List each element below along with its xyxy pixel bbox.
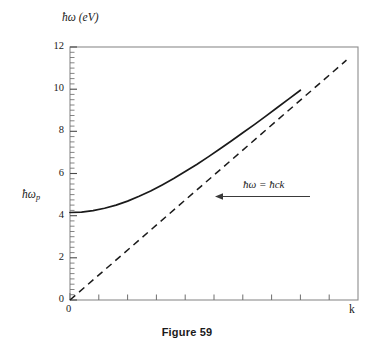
figure-plasmon-dispersion: 0 2 4 6 8 10 12 0 ħω (eV) ħωp k ħω = ħck… [0,0,374,351]
y-axis-title: ħω (eV) [62,11,99,23]
y-tick-label-2: 2 [42,251,64,262]
x-tick-label-0: 0 [66,303,71,314]
plot-frame [70,47,358,300]
plasma-frequency-subscript: p [36,193,40,202]
y-tick-label-12: 12 [42,40,64,51]
light-line-annotation: ħω = ħck [243,178,284,190]
y-tick-label-0: 0 [42,293,64,304]
y-tick-label-6: 6 [42,167,64,178]
x-axis-title: k [349,303,355,315]
plasma-frequency-label: ħωp [22,188,40,202]
x-axis-ticks [70,293,329,300]
y-tick-label-8: 8 [42,124,64,135]
plasma-frequency-base: ħω [22,188,36,200]
y-tick-label-10: 10 [42,82,64,93]
dispersion-curve [70,90,300,212]
y-axis-major-ticks [70,47,77,300]
annotation-arrow [215,193,310,199]
light-line-dashed [70,60,346,300]
figure-caption: Figure 59 [0,326,374,338]
y-tick-label-4: 4 [42,209,64,220]
